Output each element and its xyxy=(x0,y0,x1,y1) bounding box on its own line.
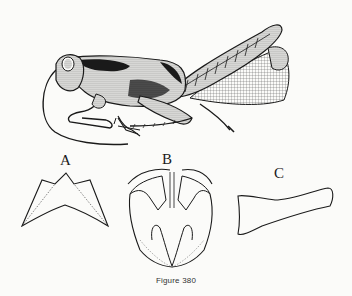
panel-a-shape xyxy=(22,173,108,226)
figure-380: A B C Figure 380 xyxy=(0,0,352,296)
figure-caption: Figure 380 xyxy=(0,276,352,285)
panel-label-b: B xyxy=(162,152,172,167)
panel-label-c: C xyxy=(274,166,284,181)
panel-c-shape xyxy=(238,188,333,235)
panel-label-a: A xyxy=(60,153,71,168)
panel-b-shape xyxy=(128,169,212,267)
grasshopper-illustration xyxy=(0,0,352,296)
